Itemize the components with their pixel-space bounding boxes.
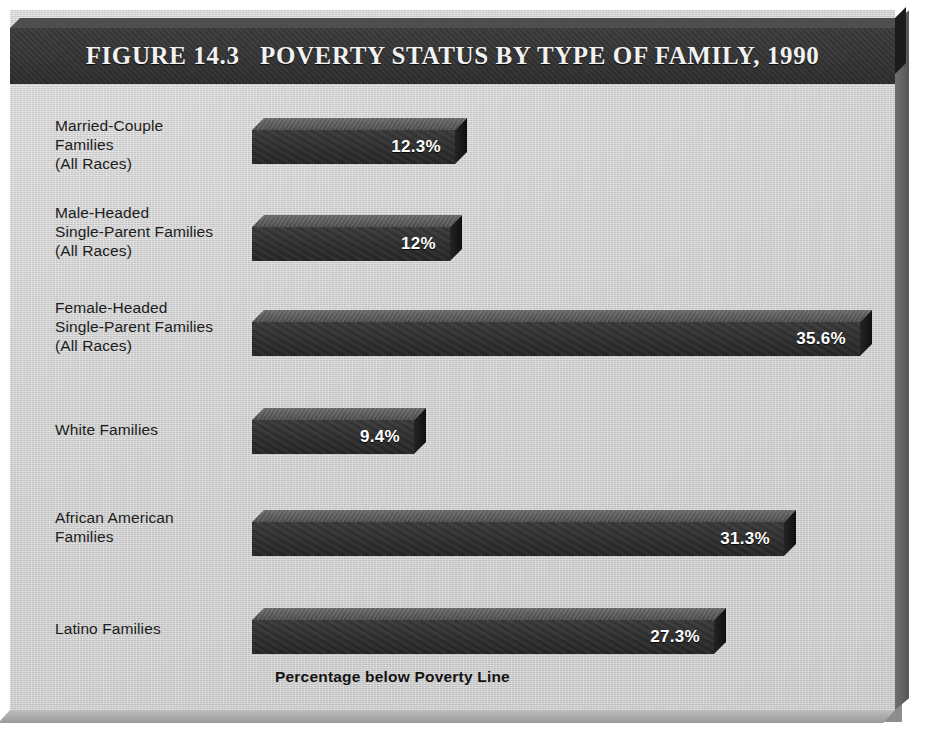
figure-right-bevel (895, 10, 909, 710)
bar-top-face (252, 310, 872, 322)
category-label: Female-Headed Single-Parent Families (Al… (55, 298, 213, 355)
bar-top-face (252, 510, 796, 522)
figure-root: FIGURE 14.3 POVERTY STATUS BY TYPE OF FA… (0, 0, 925, 746)
figure-bottom-bevel (0, 710, 895, 723)
figure-title: FIGURE 14.3 POVERTY STATUS BY TYPE OF FA… (86, 42, 820, 70)
bar-value-label: 35.6% (252, 322, 846, 356)
chart-plot-area: Percentage below Poverty Line Married-Co… (10, 90, 895, 710)
category-label: African American Families (55, 508, 174, 546)
category-label: Married-Couple Families (All Races) (55, 116, 163, 173)
bar-top-face (252, 118, 467, 130)
bar-value-label: 27.3% (252, 620, 700, 654)
bar-top-face (252, 215, 462, 227)
bar-value-label: 31.3% (252, 522, 770, 556)
title-band: FIGURE 14.3 POVERTY STATUS BY TYPE OF FA… (10, 28, 895, 84)
category-label: Latino Families (55, 619, 161, 638)
title-band-right-bevel (895, 7, 906, 74)
bar-value-label: 12.3% (252, 130, 441, 164)
bar-top-face (252, 608, 726, 620)
bar-value-label: 9.4% (252, 420, 400, 454)
axis-caption: Percentage below Poverty Line (275, 668, 510, 686)
category-label: White Families (55, 420, 158, 439)
bar-top-face (252, 408, 426, 420)
category-label: Male-Headed Single-Parent Families (All … (55, 203, 213, 260)
bar-value-label: 12% (252, 227, 436, 261)
title-band-top-bevel (10, 18, 905, 28)
